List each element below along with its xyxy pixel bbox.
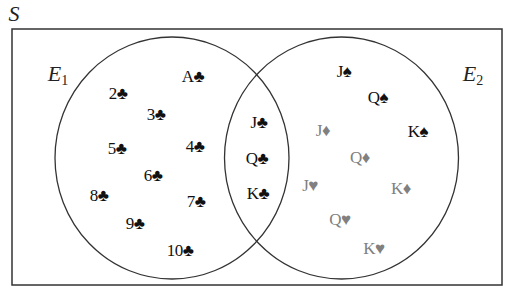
set-e2-name: E (463, 61, 476, 86)
venn-diagram: S E1 E2 A♣2♣3♣5♣4♣6♣8♣7♣9♣10♣J♣Q♣K♣J♠Q♠K… (0, 0, 513, 302)
card-e1-only: 8♣ (90, 187, 109, 204)
set-e2-subscript: 2 (476, 73, 483, 88)
card-e1-only: 7♣ (187, 193, 206, 210)
card-e1-only: 10♣ (167, 242, 194, 259)
set-e1-subscript: 1 (61, 73, 68, 88)
card-e1-only: 5♣ (108, 140, 127, 157)
card-e2-only: K♠ (408, 123, 428, 140)
card-e2-only: J♠ (337, 63, 352, 80)
card-e1-and-e2: Q♣ (246, 150, 268, 167)
card-e2-only: K♥ (363, 240, 384, 257)
card-e2-only: Q♦ (350, 149, 370, 166)
card-e1-only: 4♣ (186, 138, 205, 155)
card-e1-only: 2♣ (109, 85, 128, 102)
card-e1-only: A♣ (182, 68, 204, 85)
card-e2-only: Q♥ (329, 211, 350, 228)
set-e2-label: E2 (463, 63, 483, 88)
set-e1-name: E (48, 61, 61, 86)
card-e2-only: J♦ (316, 122, 330, 139)
card-e1-only: 3♣ (147, 106, 166, 123)
card-e2-only: J♥ (302, 177, 318, 194)
sample-space-label: S (9, 3, 20, 25)
set-e1-label: E1 (48, 63, 68, 88)
card-e1-only: 9♣ (126, 215, 145, 232)
card-e1-and-e2: K♣ (247, 185, 269, 202)
card-e1-and-e2: J♣ (251, 114, 268, 131)
card-e2-only: Q♠ (368, 89, 388, 106)
card-e2-only: K♦ (391, 180, 411, 197)
card-e1-only: 6♣ (144, 167, 163, 184)
